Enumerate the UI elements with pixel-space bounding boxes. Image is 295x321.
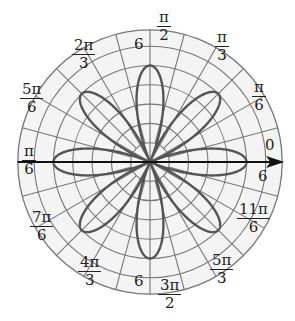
angle-label-numerator: 0 bbox=[263, 138, 277, 154]
angle-label-denominator: 3 bbox=[85, 272, 95, 288]
angle-label-numerator: 4π bbox=[78, 255, 101, 272]
zero-radius-label: 6 bbox=[258, 167, 268, 185]
angle-label-7pi_6: 7π6 bbox=[30, 210, 53, 243]
angle-label-0: 0 bbox=[263, 138, 277, 154]
angle-label-numerator: 2π bbox=[72, 38, 95, 55]
angle-label-numerator: π bbox=[22, 144, 36, 161]
angle-label-pi_3: π3 bbox=[215, 30, 229, 63]
angle-label-pi: π6 bbox=[22, 144, 36, 177]
angle-label-numerator: 3π bbox=[158, 278, 181, 295]
angle-label-numerator: π bbox=[157, 10, 171, 27]
angle-label-5pi_6: 5π6 bbox=[20, 82, 43, 115]
angle-label-denominator: 3 bbox=[217, 47, 227, 63]
angle-label-11pi_6: 11π6 bbox=[237, 202, 270, 235]
angle-label-denominator: 3 bbox=[217, 270, 227, 286]
angle-label-denominator: 2 bbox=[159, 27, 169, 43]
angle-label-numerator: 5π bbox=[20, 82, 43, 99]
angle-label-3pi_2: 3π2 bbox=[158, 278, 181, 311]
angle-label-denominator: 6 bbox=[37, 227, 47, 243]
angle-label-numerator: π bbox=[215, 30, 229, 47]
angle-label-5pi_3: 5π3 bbox=[210, 253, 233, 286]
angle-label-denominator: 6 bbox=[24, 161, 34, 177]
angle-label-numerator: 5π bbox=[210, 253, 233, 270]
angle-label-denominator: 6 bbox=[249, 219, 259, 235]
radius-label: 6 bbox=[134, 272, 144, 290]
angle-label-pi_6: π6 bbox=[252, 80, 266, 113]
angle-label-denominator: 6 bbox=[254, 97, 264, 113]
angle-label-2pi_3: 2π3 bbox=[72, 38, 95, 71]
angle-label-numerator: π bbox=[252, 80, 266, 97]
angle-label-denominator: 2 bbox=[165, 295, 175, 311]
angle-label-4pi_3: 4π3 bbox=[78, 255, 101, 288]
polar-graph bbox=[0, 0, 295, 321]
angle-label-numerator: 11π bbox=[237, 202, 270, 219]
angle-label-pi_2: π2 bbox=[157, 10, 171, 43]
angle-label-denominator: 3 bbox=[79, 55, 89, 71]
radius-label: 6 bbox=[134, 35, 144, 53]
angle-label-denominator: 6 bbox=[27, 99, 37, 115]
angle-label-numerator: 7π bbox=[30, 210, 53, 227]
